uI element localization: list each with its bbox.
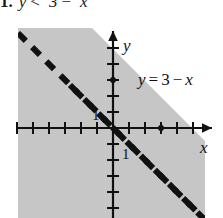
line-equation-equals: = [149,70,159,89]
problem-statement: 1.y<3−x [0,0,223,13]
y-tick-label-one: 1 [92,107,100,123]
line-equation-lhs: y [136,70,146,89]
y-intercept-point [110,77,116,83]
problem-rhs-variable: x [80,0,89,11]
problem-relation: < [30,0,40,11]
x-tick-label-one: 1 [122,146,130,162]
x-axis-label: x [199,138,208,157]
figure-page: 1.y<3−x [0,0,223,218]
line-equation-variable: x [184,70,193,89]
problem-number: 1. [0,0,13,11]
problem-rhs-constant: 3 [49,0,59,11]
x-axis-arrow-icon [202,123,212,133]
x-intercept-point [158,125,164,131]
line-equation-constant: 3 [161,70,170,89]
graph-figure: y x 1 1 y=3−x [0,13,223,218]
y-axis-label: y [121,36,131,55]
y-axis-arrow-icon [108,31,118,41]
line-equation-label: y=3−x [136,70,193,89]
line-equation-operator: − [173,70,183,89]
problem-rhs-operator: − [61,0,71,11]
problem-lhs: y [19,0,28,11]
